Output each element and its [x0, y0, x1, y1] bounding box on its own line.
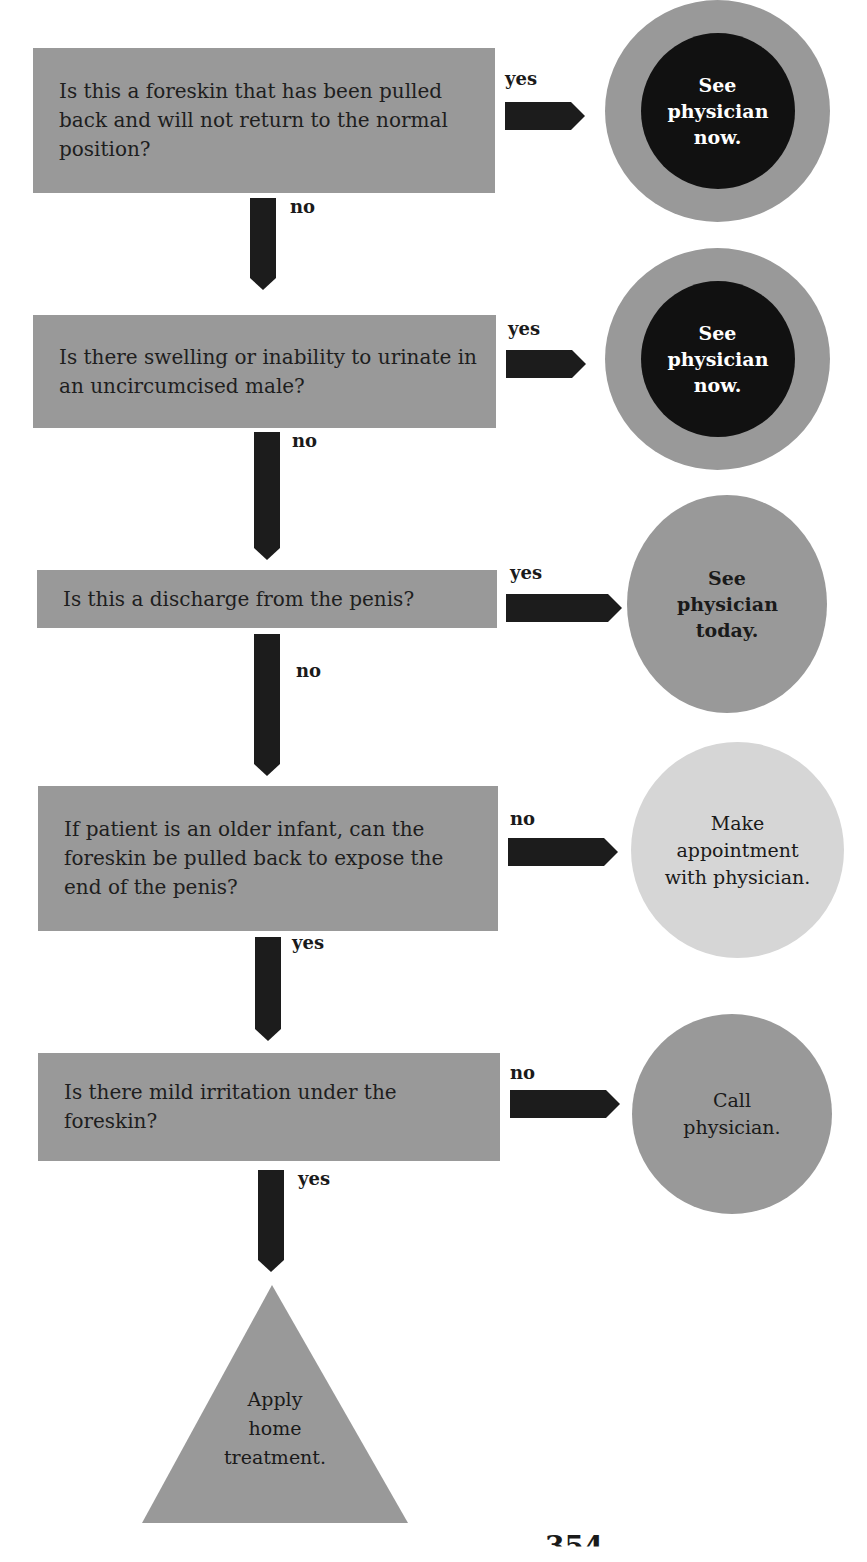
question-box-swelling: Is there swelling or inability to urinat… [33, 315, 496, 428]
arrow-down-icon [255, 937, 281, 1029]
arrowhead-down-icon [254, 764, 280, 776]
question-text: Is this a discharge from the penis? [63, 585, 414, 614]
home-treatment-text: Apply home treatment. [142, 1385, 408, 1472]
arrow-right-icon [508, 838, 604, 866]
no-label: no [296, 660, 321, 681]
outcome-circle-see-physician-now: See physician now. [605, 0, 830, 222]
yes-label: yes [510, 562, 542, 583]
no-label: no [510, 1062, 535, 1083]
outcome-circle-see-physician-now: See physician now. [605, 248, 830, 470]
arrow-right-icon [506, 594, 608, 622]
outcome-circle-see-physician-today: See physician today. [627, 495, 827, 713]
arrowhead-down-icon [255, 1029, 281, 1041]
no-label: no [290, 196, 315, 217]
outcome-text: Make appointment with physician. [663, 810, 813, 891]
question-text: Is this a foreskin that has been pulled … [59, 77, 469, 164]
page-number: 354 [545, 1530, 603, 1562]
question-box-mild-irritation: Is there mild irritation under the fores… [38, 1053, 500, 1161]
arrowhead-right-icon [572, 350, 586, 378]
arrowhead-down-icon [254, 548, 280, 560]
yes-label: yes [508, 318, 540, 339]
question-text: Is there mild irritation under the fores… [64, 1078, 444, 1136]
arrow-right-icon [505, 102, 571, 130]
arrow-down-icon [258, 1170, 284, 1260]
arrow-down-icon [254, 634, 280, 764]
outcome-circle-make-appointment: Make appointment with physician. [631, 742, 844, 958]
no-label: no [510, 808, 535, 829]
arrowhead-down-icon [250, 278, 276, 290]
question-text: Is there swelling or inability to urinat… [59, 343, 479, 401]
arrow-right-icon [510, 1090, 606, 1118]
arrowhead-right-icon [604, 838, 618, 866]
question-box-foreskin-retracted: Is this a foreskin that has been pulled … [33, 48, 495, 193]
outcome-text: Call physician. [677, 1087, 787, 1141]
question-text: If patient is an older infant, can the f… [64, 815, 464, 902]
question-box-older-infant: If patient is an older infant, can the f… [38, 786, 498, 931]
arrowhead-right-icon [608, 594, 622, 622]
arrowhead-right-icon [571, 102, 585, 130]
yes-label: yes [505, 68, 537, 89]
arrowhead-down-icon [258, 1260, 284, 1272]
question-box-discharge: Is this a discharge from the penis? [37, 570, 497, 628]
outcome-circle-call-physician: Call physician. [632, 1014, 832, 1214]
no-label: no [292, 430, 317, 451]
arrow-right-icon [506, 350, 572, 378]
outcome-inner-circle: See physician now. [641, 33, 795, 189]
yes-label: yes [292, 932, 324, 953]
arrow-down-icon [250, 198, 276, 278]
arrowhead-right-icon [606, 1090, 620, 1118]
outcome-inner-circle: See physician now. [641, 281, 795, 437]
outcome-text: See physician today. [677, 565, 777, 643]
yes-label: yes [298, 1168, 330, 1189]
outcome-text: See physician now. [668, 72, 768, 150]
outcome-text: See physician now. [668, 320, 768, 398]
arrow-down-icon [254, 432, 280, 548]
